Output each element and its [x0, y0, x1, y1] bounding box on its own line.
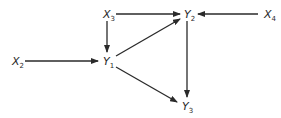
edge-y1-to-y2 — [116, 19, 180, 56]
node-x3: X3 — [102, 8, 115, 23]
path-diagram: X3Y2X4X2Y1Y3 — [0, 0, 281, 118]
node-x4: X4 — [263, 8, 277, 23]
edge-y1-to-y3 — [116, 67, 177, 102]
node-y1: Y1 — [103, 55, 114, 70]
edges-group — [25, 14, 258, 102]
node-y2: Y2 — [184, 8, 195, 23]
node-x2: X2 — [11, 55, 24, 70]
node-y3: Y3 — [182, 100, 193, 115]
